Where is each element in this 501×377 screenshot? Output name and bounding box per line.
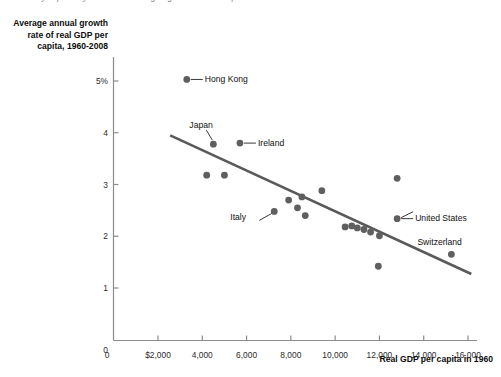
label-leader-line bbox=[259, 213, 272, 220]
x-axis-tick-label: 4,000 bbox=[192, 350, 213, 360]
data-point bbox=[183, 76, 190, 83]
data-point bbox=[394, 215, 401, 222]
label-leader-line bbox=[206, 130, 212, 140]
data-point-label: Italy bbox=[230, 212, 246, 222]
data-point bbox=[302, 212, 309, 219]
data-point bbox=[299, 194, 306, 201]
y-axis-tick-label: 3 bbox=[60, 180, 108, 190]
data-point bbox=[221, 172, 228, 179]
x-axis-tick-label: 8,000 bbox=[280, 350, 301, 360]
data-point-label: Hong Kong bbox=[205, 74, 248, 84]
y-axis-tick-label: 0 bbox=[60, 345, 108, 355]
data-point-label: United States bbox=[415, 213, 467, 223]
data-point bbox=[294, 204, 301, 211]
data-point bbox=[354, 225, 361, 232]
data-point bbox=[285, 197, 292, 204]
data-point bbox=[448, 251, 455, 258]
data-point bbox=[361, 226, 368, 233]
y-axis-tick-label: 1 bbox=[60, 283, 108, 293]
y-axis-tick-label: 2 bbox=[60, 231, 108, 241]
data-point-label: Japan bbox=[189, 120, 212, 130]
data-point-label: Ireland bbox=[258, 138, 284, 148]
data-point-label: Switzerland bbox=[417, 237, 461, 247]
y-axis-tick-label: 5% bbox=[60, 76, 108, 86]
data-point bbox=[375, 263, 382, 270]
x-axis-tick-label: 12,000 bbox=[367, 350, 393, 360]
y-axis-tick-label: 4 bbox=[60, 128, 108, 138]
x-axis-tick-label: 10,000 bbox=[322, 350, 348, 360]
x-axis-tick-label: 6,000 bbox=[236, 350, 257, 360]
data-point bbox=[318, 187, 325, 194]
data-point bbox=[342, 224, 349, 231]
data-point bbox=[210, 141, 217, 148]
data-point bbox=[367, 229, 374, 236]
label-leader-line bbox=[401, 212, 413, 218]
trend-line bbox=[170, 135, 471, 274]
data-point bbox=[203, 172, 210, 179]
data-point bbox=[376, 232, 383, 239]
x-axis-tick-label: 16,000 bbox=[455, 350, 481, 360]
x-axis-tick-label: 0 bbox=[105, 350, 110, 360]
scatter-chart: country separately. There is a strong ne… bbox=[0, 0, 501, 377]
x-axis-tick-label: $2,000 bbox=[145, 350, 171, 360]
x-axis-tick-label: 14,000 bbox=[411, 350, 437, 360]
data-point bbox=[237, 140, 244, 147]
data-point bbox=[394, 175, 401, 182]
